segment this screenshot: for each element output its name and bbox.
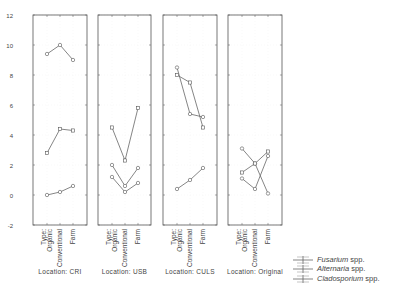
panel-location-label: Location: CULS	[165, 268, 215, 275]
legend-label: Alternaria spp.	[317, 264, 365, 274]
circle-marker	[240, 177, 243, 180]
category-label: Conventional	[56, 228, 63, 266]
y-tick-label: 6	[10, 103, 14, 109]
y-tick-label: 8	[10, 73, 14, 79]
y-tick-label: -2	[8, 223, 14, 229]
category-label: Farm	[199, 229, 206, 244]
square-marker	[58, 127, 61, 130]
legend-item-fusarium: Fusarium spp.	[292, 255, 380, 265]
circle-marker	[45, 52, 48, 55]
circle-marker	[240, 147, 243, 150]
square-marker	[136, 106, 139, 109]
category-label: Farm	[134, 229, 141, 244]
category-label: Farm	[69, 229, 76, 244]
circle-marker	[266, 154, 269, 157]
line-square-marker-icon	[292, 265, 314, 273]
square-marker	[201, 126, 204, 129]
circle-marker	[201, 115, 204, 118]
panel-location-label: Location: USB	[102, 268, 147, 275]
legend-label: Fusarium spp.	[317, 255, 365, 265]
series-line	[112, 108, 138, 161]
panel-2: Type:OrganicConventionalFarmLocation: CU…	[163, 15, 217, 275]
category-label: Organic	[176, 228, 184, 252]
legend-label: Cladosporium spp.	[317, 274, 380, 284]
circle-marker	[175, 187, 178, 190]
legend-item-cladosporium: Cladosporium spp.	[292, 274, 380, 284]
panel-location-label: Location: Original	[227, 268, 283, 276]
square-marker	[240, 171, 243, 174]
square-marker	[266, 150, 269, 153]
square-marker	[45, 151, 48, 154]
circle-marker	[58, 190, 61, 193]
circle-marker	[71, 184, 74, 187]
y-tick-label: 2	[10, 163, 14, 169]
circle-marker	[175, 66, 178, 69]
circle-marker	[110, 175, 113, 178]
panel-location-label: Location: CRI	[38, 268, 81, 275]
legend-item-alternaria: Alternaria spp.	[292, 265, 380, 275]
y-tick-label: 4	[10, 133, 14, 139]
circle-marker	[123, 190, 126, 193]
circle-marker	[123, 184, 126, 187]
circle-marker	[136, 181, 139, 184]
circle-marker	[201, 166, 204, 169]
category-label: Conventional	[186, 228, 193, 266]
circle-marker	[266, 192, 269, 195]
category-label: Farm	[264, 229, 271, 244]
circle-marker	[45, 193, 48, 196]
square-marker	[110, 126, 113, 129]
square-marker	[175, 73, 178, 76]
panel-1: Type:OrganicConventionalFarmLocation: US…	[98, 15, 151, 275]
square-marker	[253, 162, 256, 165]
y-tick-label: 0	[10, 193, 14, 199]
line-circle-marker-icon	[292, 275, 314, 283]
circle-marker	[188, 178, 191, 181]
legend: Fusarium spp. Alternaria spp. Cladospori…	[292, 255, 380, 284]
category-label: Conventional	[251, 228, 258, 266]
square-marker	[71, 129, 74, 132]
interaction-plot: -2024681012Type:OrganicConventionalFarmL…	[0, 0, 393, 298]
circle-marker	[110, 163, 113, 166]
category-label: Organic	[241, 228, 249, 252]
panel-0: Type:OrganicConventionalFarmLocation: CR…	[33, 15, 87, 275]
line-circle-marker-icon	[292, 256, 314, 264]
y-tick-label: 10	[6, 43, 13, 49]
y-tick-label: 12	[6, 13, 13, 19]
circle-marker	[188, 112, 191, 115]
square-marker	[188, 81, 191, 84]
category-label: Organic	[46, 228, 54, 252]
circle-marker	[58, 43, 61, 46]
panel-3: Type:OrganicConventionalFarmLocation: Or…	[227, 15, 283, 276]
category-label: Conventional	[121, 228, 128, 266]
square-marker	[123, 159, 126, 162]
circle-marker	[253, 187, 256, 190]
circle-marker	[136, 166, 139, 169]
circle-marker	[71, 58, 74, 61]
category-label: Organic	[111, 228, 119, 252]
